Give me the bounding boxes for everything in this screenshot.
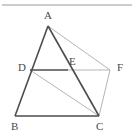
vertex-label-C: C: [96, 121, 103, 132]
vertex-label-F: F: [117, 62, 123, 73]
vertex-label-B: B: [11, 121, 18, 132]
vertex-label-A: A: [44, 10, 52, 21]
segment-DC: [30, 70, 99, 116]
geometry-figure: A B C D E F: [0, 0, 134, 140]
segment-AF: [48, 26, 110, 70]
segment-CF: [99, 70, 110, 116]
vertex-label-E: E: [69, 56, 76, 67]
segment-AC: [48, 26, 99, 116]
vertex-label-D: D: [18, 62, 26, 73]
